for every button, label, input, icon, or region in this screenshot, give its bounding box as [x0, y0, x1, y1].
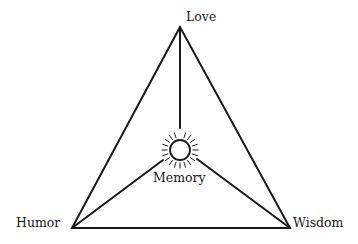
sun-ray	[162, 144, 168, 146]
sun-ray	[165, 139, 170, 143]
triangle-diagram	[0, 0, 358, 244]
sun-ray	[190, 157, 195, 161]
vertex-label-love: Love	[186, 11, 216, 24]
sun-ray	[184, 132, 186, 138]
sun-ray	[174, 132, 176, 138]
sun-ray	[187, 160, 191, 165]
sun-ray	[162, 154, 168, 156]
sun-ray	[192, 144, 198, 146]
sun-ray	[174, 162, 176, 168]
sun-ray	[165, 157, 170, 161]
sun-ray	[190, 139, 195, 143]
sun-ray	[187, 135, 191, 140]
vertex-label-humor: Humor	[16, 217, 60, 230]
sun-ray	[169, 160, 173, 165]
center-label-memory: Memory	[153, 172, 206, 185]
sun-ray	[169, 135, 173, 140]
sun-ray	[184, 162, 186, 168]
vertex-label-wisdom: Wisdom	[293, 217, 343, 230]
sun-icon	[162, 132, 199, 168]
spoke-wisdom-memory	[197, 159, 290, 228]
sun-ray	[192, 154, 198, 156]
spoke-humor-memory	[72, 160, 163, 228]
